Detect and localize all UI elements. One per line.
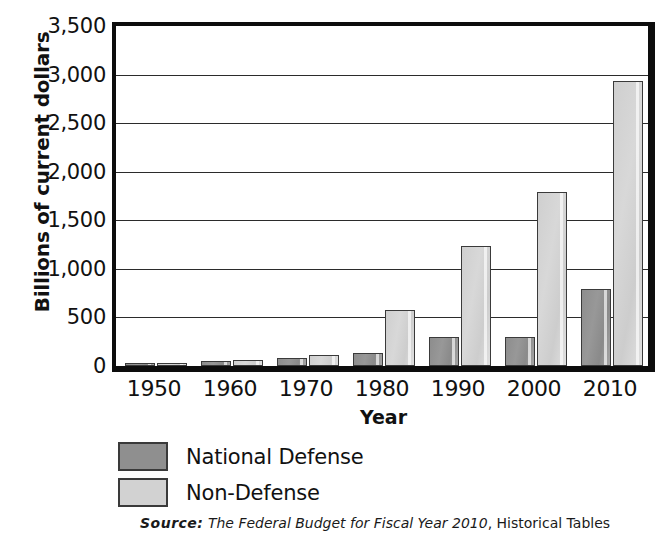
- source-note: Source: The Federal Budget for Fiscal Ye…: [140, 515, 660, 532]
- bar-highlight: [408, 311, 411, 365]
- bar-non-defense: [233, 360, 263, 366]
- bar-non-defense: [537, 192, 567, 366]
- bar-face: [538, 193, 566, 365]
- bar-face: [430, 338, 458, 365]
- bar-chart-figure: Billions of current dollars 05001,0001,5…: [0, 0, 672, 534]
- x-axis-tick: 1950: [116, 376, 192, 402]
- y-axis-tick: 2,000: [8, 162, 106, 183]
- bar-face: [310, 356, 338, 365]
- bar-face: [278, 359, 306, 365]
- bar-national-defense: [505, 337, 535, 366]
- bar-group: [192, 26, 268, 366]
- bar-non-defense: [385, 310, 415, 366]
- bar-face: [126, 364, 154, 365]
- legend-item: Non-Defense: [118, 476, 538, 509]
- bar-group: [116, 26, 192, 366]
- y-axis-tick: 1,000: [8, 259, 106, 280]
- bar-highlight: [256, 361, 259, 365]
- bar-face: [354, 354, 382, 365]
- x-axis-tick: 2000: [496, 376, 572, 402]
- bar-non-defense: [613, 81, 643, 366]
- bar-face: [614, 82, 642, 365]
- bar-highlight: [636, 82, 639, 365]
- legend-swatch-national-defense: [118, 442, 168, 471]
- bar-group: [496, 26, 572, 366]
- legend-label: Non-Defense: [186, 481, 320, 505]
- x-axis-tick: 1960: [192, 376, 268, 402]
- bar-face: [462, 247, 490, 365]
- bar-group: [344, 26, 420, 366]
- bar-highlight: [528, 338, 531, 365]
- bar-national-defense: [353, 353, 383, 366]
- bar-highlight: [148, 364, 151, 365]
- bar-highlight: [452, 338, 455, 365]
- plot-inner: [116, 26, 648, 366]
- bar-highlight: [300, 359, 303, 365]
- bar-face: [158, 364, 186, 365]
- y-axis-tick: 0: [8, 356, 106, 377]
- bar-national-defense: [429, 337, 459, 366]
- bar-non-defense: [309, 355, 339, 366]
- legend-label: National Defense: [186, 445, 364, 469]
- y-axis-tick: 3,500: [8, 16, 106, 37]
- legend-item: National Defense: [118, 440, 538, 473]
- bar-highlight: [560, 193, 563, 365]
- bar-highlight: [224, 362, 227, 365]
- bar-group: [420, 26, 496, 366]
- bar-national-defense: [125, 363, 155, 366]
- y-axis-tick: 2,500: [8, 113, 106, 134]
- chart-legend: National DefenseNon-Defense: [118, 440, 538, 512]
- bar-highlight: [332, 356, 335, 365]
- y-axis-tick: 3,000: [8, 65, 106, 86]
- bar-national-defense: [201, 361, 231, 366]
- source-tail: , Historical Tables: [488, 515, 610, 531]
- bar-non-defense: [157, 363, 187, 366]
- x-axis-title: Year: [112, 406, 655, 428]
- bar-face: [202, 362, 230, 365]
- bar-face: [582, 290, 610, 365]
- bar-national-defense: [277, 358, 307, 366]
- plot-area: [112, 22, 655, 372]
- bar-national-defense: [581, 289, 611, 366]
- x-axis-tick-labels: 1950196019701980199020002010: [112, 376, 655, 408]
- source-prefix: Source:: [140, 515, 203, 531]
- bar-non-defense: [461, 246, 491, 366]
- bar-group: [268, 26, 344, 366]
- bar-highlight: [376, 354, 379, 365]
- bar-highlight: [604, 290, 607, 365]
- y-axis-tick: 1,500: [8, 210, 106, 231]
- bar-face: [386, 311, 414, 365]
- x-axis-tick: 1990: [420, 376, 496, 402]
- x-axis-tick: 2010: [572, 376, 648, 402]
- legend-swatch-non-defense: [118, 478, 168, 507]
- x-axis-tick: 1970: [268, 376, 344, 402]
- bar-group: [572, 26, 648, 366]
- y-axis-tick: 500: [8, 307, 106, 328]
- bar-face: [506, 338, 534, 365]
- bar-highlight: [484, 247, 487, 365]
- bar-highlight: [180, 364, 183, 365]
- bar-face: [234, 361, 262, 365]
- x-axis-tick: 1980: [344, 376, 420, 402]
- y-axis-tick-labels: 05001,0001,5002,0002,5003,0003,500: [8, 10, 106, 390]
- source-title: The Federal Budget for Fiscal Year 2010: [208, 515, 488, 531]
